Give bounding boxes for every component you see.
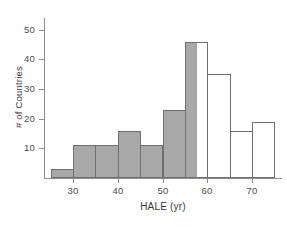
y-tick-label: 50 <box>2 25 35 35</box>
x-tick <box>73 178 74 183</box>
x-tick-label: 30 <box>58 186 88 196</box>
x-tick <box>163 178 164 183</box>
histogram-bar <box>207 74 230 178</box>
x-tick <box>207 178 208 183</box>
histogram-bar <box>95 145 118 178</box>
histogram-bar <box>252 122 275 178</box>
x-tick-label: 50 <box>148 186 178 196</box>
x-axis-title: HALE (yr) <box>44 201 282 212</box>
histogram-bar <box>140 145 163 178</box>
x-tick <box>118 178 119 183</box>
x-tick-label: 60 <box>192 186 222 196</box>
x-tick-label: 40 <box>103 186 133 196</box>
histogram-bar <box>185 42 208 178</box>
histogram-figure: 1020304050 3040506070 HALE (yr) # of Cou… <box>0 0 287 227</box>
plot-area <box>44 18 281 178</box>
histogram-bar <box>51 169 74 178</box>
y-axis-title: # of Countries <box>14 37 24 157</box>
histogram-bar <box>118 131 141 178</box>
x-tick-label: 70 <box>237 186 267 196</box>
histogram-bar <box>73 145 96 178</box>
x-tick <box>252 178 253 183</box>
histogram-bar <box>230 131 253 178</box>
histogram-bar <box>163 110 186 178</box>
